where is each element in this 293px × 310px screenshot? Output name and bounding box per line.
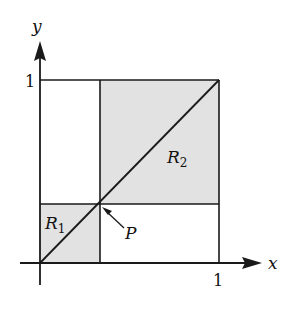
diagram-canvas: y 1 x 1 R1 R2 P <box>0 0 293 310</box>
p-pointer-arrow-icon <box>102 207 112 215</box>
y-axis-arrow-icon <box>34 41 46 61</box>
region-r1-subscript: 1 <box>58 222 66 236</box>
x-axis-arrow-icon <box>242 257 262 269</box>
x-tick-label: 1 <box>213 271 223 290</box>
region-r1-name: R <box>44 213 58 233</box>
x-axis-label: x <box>268 253 278 273</box>
region-r2-name: R <box>166 147 180 167</box>
region-r2-subscript: 2 <box>180 156 188 170</box>
point-p-label: P <box>124 223 137 243</box>
y-tick-label: 1 <box>25 72 35 91</box>
y-axis-label: y <box>31 16 42 36</box>
